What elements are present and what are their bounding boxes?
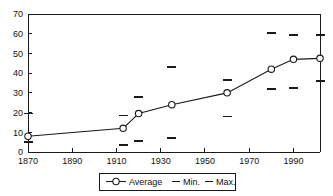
average-point-1935 [169,101,175,107]
x-tick-label-1950: 1950 [195,156,215,166]
y-tick-label-60: 60 [13,29,23,39]
y-tick-label-10: 10 [13,128,23,138]
legend-label-min: Min. [183,177,200,187]
x-tick-label-1890: 1890 [62,156,82,166]
x-tick-label-1930: 1930 [151,156,171,166]
chart-background [0,0,333,196]
y-tick-label-30: 30 [13,88,23,98]
legend-label-average: Average [129,177,162,187]
average-point-1920 [135,110,141,116]
average-point-1913 [120,125,126,131]
x-tick-label-1870: 1870 [18,156,38,166]
y-tick-label-70: 70 [13,9,23,19]
chart-container: 010203040506070 187018901910193019501970… [0,0,333,196]
average-point-1990 [290,56,296,62]
x-tick-label-1910: 1910 [106,156,126,166]
average-point-1870 [25,133,31,139]
average-point-1960 [224,90,230,96]
average-point-1980 [268,66,274,72]
average-point-2002 [317,55,323,61]
line-chart: 010203040506070 187018901910193019501970… [0,0,333,196]
y-tick-label-50: 50 [13,49,23,59]
x-tick-label-1970: 1970 [239,156,259,166]
x-tick-label-1990: 1990 [283,156,303,166]
chart-legend: AverageMin.Max. [99,173,236,190]
legend-average-marker [113,178,119,184]
y-tick-label-20: 20 [13,108,23,118]
y-tick-label-40: 40 [13,68,23,78]
legend-label-max: Max. [216,177,236,187]
